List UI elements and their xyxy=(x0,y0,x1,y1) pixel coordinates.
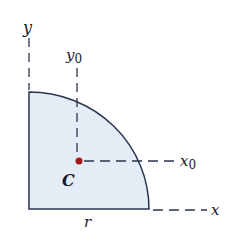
centroid-label: C xyxy=(62,171,75,190)
y-axis-label: y xyxy=(22,18,33,37)
quarter-circle-area xyxy=(29,92,149,209)
x0-axis-label: x0 xyxy=(180,152,196,172)
quarter-circle-diagram: y y0 x0 x C r xyxy=(0,0,233,242)
y0-axis-label: y0 xyxy=(65,46,82,66)
radius-label: r xyxy=(84,213,92,231)
x-axis-label: x xyxy=(211,201,220,219)
centroid-dot xyxy=(76,158,83,165)
